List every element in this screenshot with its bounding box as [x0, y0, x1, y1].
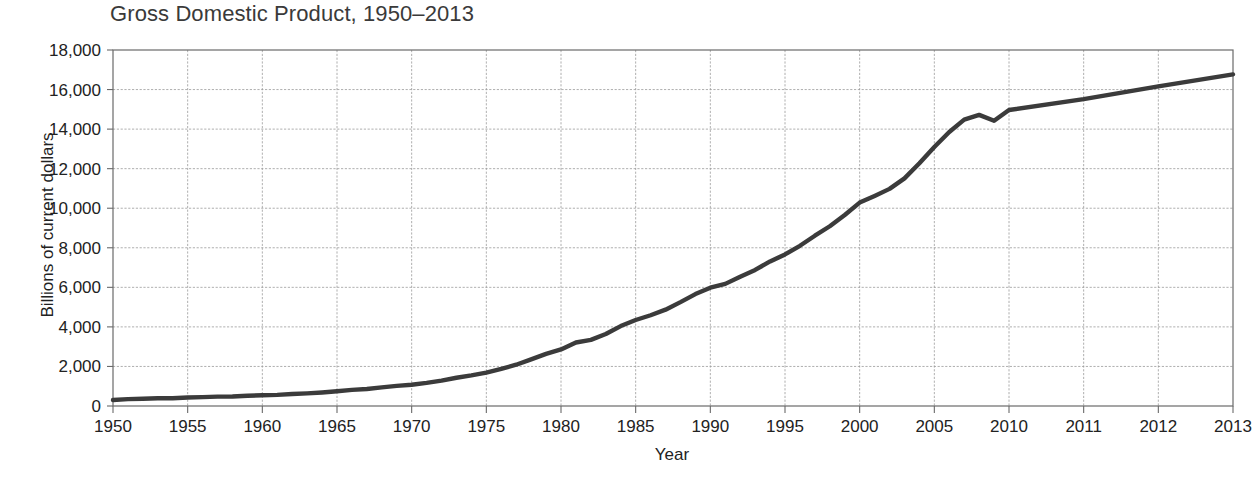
x-tick-label: 1980 [542, 417, 580, 436]
y-tick-labels: 18,00016,00014,00012,00010,0008,0006,000… [49, 41, 101, 416]
y-tick-label: 0 [92, 397, 101, 416]
x-tick-label: 1955 [169, 417, 207, 436]
y-tick-label: 6,000 [58, 278, 101, 297]
y-tick-label: 16,000 [49, 81, 101, 100]
x-tick-label: 1950 [94, 417, 132, 436]
x-tick-label: 2010 [990, 417, 1028, 436]
x-tick-label: 1975 [467, 417, 505, 436]
x-tick-labels: 1950195519601965197019751980198519901995… [94, 417, 1252, 436]
x-tick-label: 1960 [243, 417, 281, 436]
x-tick-label: 1970 [393, 417, 431, 436]
y-tick-label: 4,000 [58, 318, 101, 337]
y-tick-label: 12,000 [49, 160, 101, 179]
x-tick-label: 2011 [1065, 417, 1102, 436]
gdp-chart-figure: Gross Domestic Product, 1950–2013 Billio… [0, 0, 1254, 478]
x-tick-label: 1990 [691, 417, 729, 436]
plot-area: 18,00016,00014,00012,00010,0008,0006,000… [0, 0, 1254, 478]
x-tick-label: 2005 [915, 417, 953, 436]
y-tick-label: 14,000 [49, 120, 101, 139]
x-tick-label: 1965 [318, 417, 356, 436]
axis-ticks [107, 50, 1233, 413]
x-tick-label: 2012 [1139, 417, 1177, 436]
y-tick-label: 2,000 [58, 357, 101, 376]
y-tick-label: 8,000 [58, 239, 101, 258]
x-tick-label: 1995 [766, 417, 804, 436]
y-tick-label: 18,000 [49, 41, 101, 60]
gdp-line-series [113, 74, 1233, 400]
x-tick-label: 2000 [841, 417, 879, 436]
x-tick-label: 2013 [1214, 417, 1252, 436]
x-tick-label: 1985 [617, 417, 655, 436]
y-tick-label: 10,000 [49, 199, 101, 218]
